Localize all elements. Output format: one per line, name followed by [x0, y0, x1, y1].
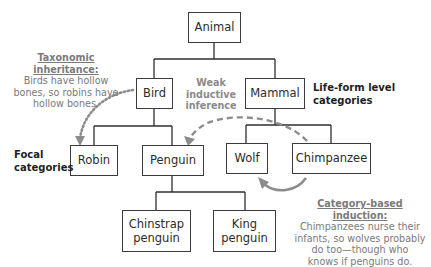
taxonomic-inheritance-heading: Taxonomic inheritance: [6, 52, 126, 75]
category-based-induction-heading: Category-based induction: [290, 198, 430, 221]
node-chinstrap-label-line2: penguin [133, 231, 180, 245]
category-based-induction-annotation: Category-based induction: Chimpanzees nu… [290, 198, 430, 267]
node-king-penguin: King penguin [213, 210, 276, 252]
node-bird: Bird [136, 78, 173, 109]
node-bird-label: Bird [143, 86, 166, 100]
weak-inductive-inference-label: Weak inductive inference [182, 77, 240, 112]
node-chimpanzee-label: Chimpanzee [296, 151, 368, 165]
node-mammal: Mammal [245, 78, 305, 109]
category-based-induction-arrow [258, 177, 306, 190]
life-form-level-label: Life-form level categories [313, 82, 395, 107]
node-wolf-label: Wolf [235, 151, 260, 165]
node-chinstrap-penguin: Chinstrap penguin [122, 210, 191, 252]
node-animal: Animal [188, 12, 241, 43]
node-king-label-line2: penguin [221, 231, 268, 245]
node-king-label-line1: King [232, 217, 257, 231]
node-penguin-label: Penguin [150, 153, 196, 167]
node-penguin: Penguin [142, 145, 204, 176]
node-chinstrap-label-line1: Chinstrap [129, 217, 184, 231]
taxonomic-inheritance-annotation: Taxonomic inheritance: Birds have hollow… [6, 52, 126, 110]
node-robin: Robin [70, 145, 118, 176]
focal-categories-label: Focal categories [14, 149, 73, 174]
node-animal-label: Animal [195, 20, 235, 34]
node-wolf: Wolf [226, 143, 268, 174]
node-chimpanzee: Chimpanzee [292, 143, 371, 174]
node-robin-label: Robin [78, 153, 110, 167]
node-mammal-label: Mammal [250, 86, 300, 100]
